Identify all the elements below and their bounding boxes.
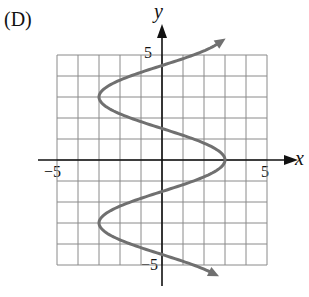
- plot-area: [0, 0, 309, 297]
- x-axis-arrow-icon: [284, 155, 298, 165]
- y-axis-arrow-icon: [157, 24, 167, 38]
